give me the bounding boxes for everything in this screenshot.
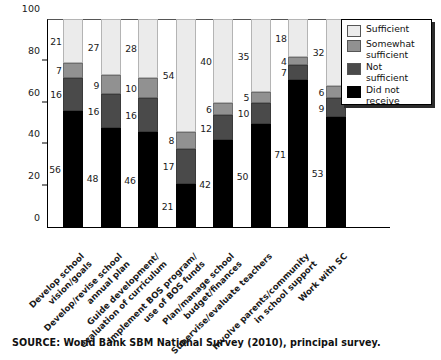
bar-segment: 28 — [138, 19, 158, 78]
bar-value-label: 10 — [125, 82, 137, 93]
bar-value-label: 46 — [124, 174, 136, 185]
plot-area: Percentage 020406080100 5616721481692746… — [47, 19, 390, 228]
stacked-bar[interactable]: 5616721 — [63, 19, 83, 228]
bar-value-label: 50 — [237, 170, 249, 181]
bar-segment: 16 — [138, 98, 158, 131]
bar-segment: 12 — [213, 115, 233, 140]
bar-segment: 35 — [251, 19, 271, 92]
bar-value-label: 7 — [56, 65, 62, 76]
bar-value-label: 53 — [312, 167, 324, 178]
bar-segment: 4 — [288, 57, 308, 65]
legend-label: Not sufficient — [366, 62, 408, 83]
bar-segment: 17 — [176, 149, 196, 185]
y-tick-label: 100 — [14, 3, 40, 14]
bar-segment: 27 — [101, 19, 121, 75]
bar-value-label: 9 — [94, 79, 100, 90]
legend-item[interactable]: Somewhat sufficient — [347, 39, 428, 60]
bar-group: 46161028 — [138, 19, 158, 228]
bar-segment: 42 — [213, 140, 233, 228]
bar-segment: 10 — [138, 78, 158, 99]
bar-value-label: 6 — [319, 87, 325, 98]
legend-item[interactable]: Did not receive — [347, 85, 428, 106]
bar-segment: 56 — [63, 111, 83, 228]
legend-swatch-icon — [347, 40, 361, 52]
bar-value-label: 6 — [206, 103, 212, 114]
bar-value-label: 35 — [238, 50, 250, 61]
legend-swatch-icon — [347, 63, 361, 75]
bar-segment: 5 — [251, 92, 271, 102]
bar-value-label: 12 — [200, 122, 212, 133]
bar-group: 4212640 — [213, 19, 233, 228]
source-note: SOURCE: World Bank SBM National Survey (… — [12, 337, 381, 348]
bar-segment: 6 — [213, 103, 233, 116]
y-tick-mark — [42, 185, 47, 186]
bar-segment: 71 — [288, 80, 308, 228]
bar-segment: 53 — [326, 117, 346, 228]
bar-value-label: 48 — [87, 172, 99, 183]
bar-value-label: 28 — [125, 43, 137, 54]
stacked-bar[interactable]: 5010535 — [251, 19, 271, 228]
bar-value-label: 21 — [162, 201, 174, 212]
stacked-bar[interactable]: 46161028 — [138, 19, 158, 228]
legend-swatch-icon — [347, 86, 361, 98]
stacked-bar[interactable]: 4212640 — [213, 19, 233, 228]
legend-label: Sufficient — [366, 24, 409, 35]
bar-segment: 48 — [101, 128, 121, 228]
bar-segment: 40 — [213, 19, 233, 103]
legend-item[interactable]: Sufficient — [347, 24, 428, 37]
bar-value-label: 7 — [281, 67, 287, 78]
bar-value-label: 32 — [313, 47, 325, 58]
bar-group: 5010535 — [251, 19, 271, 228]
y-tick-mark — [42, 59, 47, 60]
bar-group: 717418 — [288, 19, 308, 228]
bar-value-label: 27 — [88, 42, 100, 53]
stacked-bar[interactable]: 717418 — [288, 19, 308, 228]
bar-value-label: 54 — [163, 70, 175, 81]
bar-segment: 16 — [101, 94, 121, 127]
chart-figure: Percentage 020406080100 5616721481692746… — [0, 0, 441, 360]
bar-value-label: 16 — [88, 105, 100, 116]
y-tick-label: 60 — [14, 86, 40, 97]
legend-item[interactable]: Not sufficient — [347, 62, 428, 83]
bar-group: 2117854 — [176, 19, 196, 228]
stacked-bar[interactable]: 4816927 — [101, 19, 121, 228]
y-tick-label: 40 — [14, 128, 40, 139]
y-tick-mark — [42, 101, 47, 102]
bar-value-label: 42 — [199, 179, 211, 190]
bar-value-label: 18 — [275, 32, 287, 43]
bar-value-label: 10 — [238, 108, 250, 119]
bar-value-label: 8 — [169, 135, 175, 146]
legend-label: Somewhat sufficient — [366, 39, 415, 60]
y-tick-label: 0 — [14, 212, 40, 223]
bar-value-label: 16 — [50, 89, 62, 100]
chart-legend: SufficientSomewhat sufficientNot suffici… — [341, 19, 432, 105]
bar-segment: 9 — [101, 75, 121, 94]
bar-value-label: 17 — [163, 161, 175, 172]
stacked-bar[interactable]: 2117854 — [176, 19, 196, 228]
bar-segment: 46 — [138, 132, 158, 228]
y-tick-mark — [42, 143, 47, 144]
bar-value-label: 4 — [281, 55, 287, 66]
bar-value-label: 21 — [50, 35, 62, 46]
bar-value-label: 16 — [125, 110, 137, 121]
bar-value-label: 71 — [274, 148, 286, 159]
bar-segment: 54 — [176, 19, 196, 132]
bar-segment: 50 — [251, 124, 271, 229]
legend-label: Did not receive — [366, 85, 400, 106]
bar-segment: 7 — [288, 65, 308, 80]
bar-segment: 21 — [63, 19, 83, 63]
bar-group: 4816927 — [101, 19, 121, 228]
bar-value-label: 5 — [244, 92, 250, 103]
bar-value-label: 40 — [200, 55, 212, 66]
y-tick-label: 20 — [14, 170, 40, 181]
y-tick-label: 80 — [14, 44, 40, 55]
bar-segment: 18 — [288, 19, 308, 57]
bar-group: 5616721 — [63, 19, 83, 228]
bar-segment: 16 — [63, 78, 83, 111]
bar-value-label: 9 — [319, 102, 325, 113]
bar-segment: 21 — [176, 184, 196, 228]
bar-segment: 7 — [63, 63, 83, 78]
bar-value-label: 56 — [49, 164, 61, 175]
legend-swatch-icon — [347, 25, 361, 37]
bar-segment: 10 — [251, 103, 271, 124]
